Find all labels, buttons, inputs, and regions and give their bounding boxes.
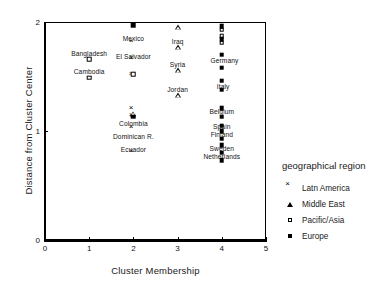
x-tick-label: 2 xyxy=(131,244,135,253)
x-tick xyxy=(222,237,223,240)
data-point xyxy=(131,115,136,120)
data-point xyxy=(175,93,181,98)
legend-item-middle-east[interactable]: Middle East xyxy=(282,196,382,212)
legend-item-pacific-asia[interactable]: Pacific/Asia xyxy=(282,212,382,228)
x-tick-label: 1 xyxy=(87,244,91,253)
x-tick xyxy=(178,237,179,240)
data-point xyxy=(220,65,225,70)
point-label: Sweden xyxy=(210,145,234,152)
legend-item-latn-america[interactable]: ×Latn America xyxy=(282,180,382,196)
open-square-marker-icon xyxy=(87,75,92,80)
x-axis-title: Cluster Membership xyxy=(45,265,266,276)
data-point xyxy=(220,24,225,29)
legend-item-label: Middle East xyxy=(302,200,345,209)
point-label: Finland xyxy=(211,131,233,138)
x-tick-label: 5 xyxy=(264,244,268,253)
filled-square-marker-icon xyxy=(288,234,293,239)
filled-square-marker-icon xyxy=(131,23,136,28)
filled-square-marker-icon xyxy=(220,24,225,29)
legend-items: ×Latn AmericaMiddle EastPacific/AsiaEuro… xyxy=(282,180,382,244)
point-label: Iraq xyxy=(172,38,184,45)
triangle-marker-icon xyxy=(175,25,181,30)
point-label: Colombia xyxy=(119,120,148,127)
filled-square-marker-icon xyxy=(220,115,225,120)
y-tick-label: 2 xyxy=(26,18,40,27)
triangle-marker-inner xyxy=(330,162,334,165)
data-point xyxy=(220,37,225,42)
legend-symbol xyxy=(282,234,298,239)
open-square-marker-icon xyxy=(288,218,293,223)
triangle-marker-inner xyxy=(176,94,180,97)
triangle-marker-icon xyxy=(175,93,181,98)
y-tick xyxy=(45,22,48,23)
y-axis-title: Distance from Cluster Center xyxy=(23,41,34,221)
legend: geographical region ×Latn AmericaMiddle … xyxy=(282,160,382,244)
triangle-marker-icon xyxy=(175,67,181,72)
point-label: El Salvador xyxy=(116,53,151,60)
filled-square-marker-icon xyxy=(220,37,225,42)
data-point xyxy=(175,67,181,72)
filled-square-marker-icon xyxy=(131,115,136,120)
x-tick xyxy=(89,237,90,240)
y-tick xyxy=(45,131,48,132)
legend-item-label: Latn America xyxy=(302,184,350,193)
point-label: Ecuador xyxy=(121,146,146,153)
point-label: Germany xyxy=(211,57,239,64)
point-label: Syria xyxy=(170,61,186,68)
scatter-chart-root: 012345012 ××××××× MexicoEl SalvadorBangl… xyxy=(0,0,386,296)
y-tick xyxy=(45,240,48,241)
filled-square-marker-icon xyxy=(220,65,225,70)
cross-marker-icon: × xyxy=(285,180,290,188)
legend-symbol xyxy=(282,218,298,223)
triangle-marker-icon xyxy=(287,202,293,207)
legend-symbol xyxy=(282,202,298,207)
point-label: Cambodia xyxy=(74,68,105,75)
point-label: Dominican R. xyxy=(113,133,154,140)
legend-item-label: Pacific/Asia xyxy=(302,216,344,225)
legend-item-europe[interactable]: Europe xyxy=(282,228,382,244)
data-point xyxy=(220,115,225,120)
x-tick-label: 4 xyxy=(220,244,224,253)
point-label: Mexico xyxy=(123,35,145,42)
legend-item-label: Europe xyxy=(302,232,328,241)
point-label: Belgium xyxy=(210,108,235,115)
triangle-marker-inner xyxy=(176,69,180,72)
point-label: Jordan xyxy=(167,86,188,93)
data-point xyxy=(175,25,181,30)
data-point xyxy=(175,45,181,50)
triangle-marker-inner xyxy=(176,46,180,49)
x-axis-line xyxy=(44,240,267,242)
data-point xyxy=(131,23,136,28)
data-point xyxy=(87,57,92,62)
x-tick-label: 3 xyxy=(175,244,179,253)
triangle-marker-inner xyxy=(176,27,180,30)
open-square-marker-icon xyxy=(87,57,92,62)
point-label: Netherlands xyxy=(203,153,240,160)
point-label: Bangladesh xyxy=(71,50,107,57)
triangle-marker-icon xyxy=(175,45,181,50)
x-tick xyxy=(133,237,134,240)
point-label: Spain xyxy=(213,123,230,130)
x-tick xyxy=(266,237,267,240)
legend-symbol: × xyxy=(282,184,298,192)
x-tick-label: 0 xyxy=(43,244,47,253)
data-point xyxy=(87,75,92,80)
point-label: Italy xyxy=(217,83,230,90)
y-tick-label: 0 xyxy=(26,236,40,245)
open-square-marker-icon xyxy=(131,72,136,77)
data-point xyxy=(131,72,136,77)
